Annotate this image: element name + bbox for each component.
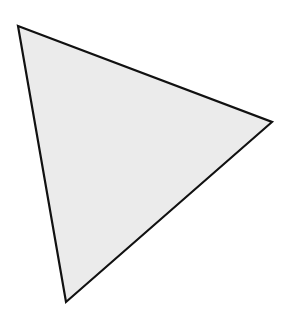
triangle-shape [18,26,272,302]
diagram-canvas [0,0,286,321]
